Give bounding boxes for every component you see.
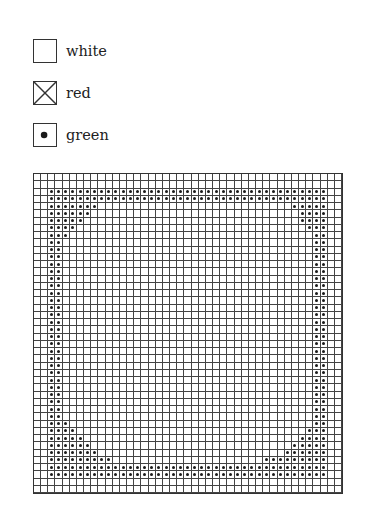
grid-cell-white[interactable] [55, 486, 62, 493]
grid-cell-white[interactable] [199, 297, 206, 304]
grid-cell-white[interactable] [34, 384, 41, 391]
grid-cell-white[interactable] [134, 203, 141, 210]
grid-cell-white[interactable] [77, 413, 84, 420]
grid-cell-white[interactable] [328, 363, 335, 370]
grid-cell-white[interactable] [306, 326, 313, 333]
grid-cell-white[interactable] [163, 247, 170, 254]
grid-cell-white[interactable] [270, 283, 277, 290]
grid-cell-white[interactable] [77, 486, 84, 493]
grid-cell-white[interactable] [184, 334, 191, 341]
grid-cell-white[interactable] [213, 406, 220, 413]
grid-cell-white[interactable] [328, 399, 335, 406]
grid-cell-white[interactable] [227, 363, 234, 370]
grid-cell-white[interactable] [113, 254, 120, 261]
grid-cell-green[interactable] [48, 326, 55, 333]
grid-cell-white[interactable] [249, 283, 256, 290]
grid-cell-white[interactable] [270, 181, 277, 188]
grid-cell-white[interactable] [192, 239, 199, 246]
grid-cell-green[interactable] [321, 218, 328, 225]
grid-cell-white[interactable] [184, 239, 191, 246]
grid-cell-green[interactable] [98, 196, 105, 203]
grid-cell-white[interactable] [41, 305, 48, 312]
grid-cell-green[interactable] [127, 196, 134, 203]
grid-cell-white[interactable] [227, 355, 234, 362]
grid-cell-white[interactable] [206, 174, 213, 181]
grid-cell-white[interactable] [141, 210, 148, 217]
grid-cell-white[interactable] [98, 239, 105, 246]
grid-cell-green[interactable] [55, 312, 62, 319]
grid-cell-white[interactable] [41, 413, 48, 420]
grid-cell-white[interactable] [235, 276, 242, 283]
grid-cell-green[interactable] [321, 254, 328, 261]
grid-cell-white[interactable] [192, 319, 199, 326]
grid-cell-white[interactable] [328, 348, 335, 355]
grid-cell-green[interactable] [292, 457, 299, 464]
grid-cell-white[interactable] [263, 232, 270, 239]
grid-cell-white[interactable] [177, 232, 184, 239]
grid-cell-white[interactable] [206, 348, 213, 355]
grid-cell-white[interactable] [270, 268, 277, 275]
grid-cell-white[interactable] [113, 399, 120, 406]
grid-cell-white[interactable] [206, 479, 213, 486]
grid-cell-white[interactable] [77, 363, 84, 370]
grid-cell-white[interactable] [263, 435, 270, 442]
grid-cell-white[interactable] [206, 435, 213, 442]
grid-cell-white[interactable] [328, 232, 335, 239]
grid-cell-white[interactable] [170, 210, 177, 217]
grid-cell-white[interactable] [163, 341, 170, 348]
grid-cell-white[interactable] [34, 363, 41, 370]
grid-cell-white[interactable] [213, 377, 220, 384]
grid-cell-white[interactable] [199, 413, 206, 420]
grid-cell-white[interactable] [134, 326, 141, 333]
grid-cell-white[interactable] [113, 239, 120, 246]
grid-cell-green[interactable] [177, 464, 184, 471]
grid-cell-white[interactable] [91, 297, 98, 304]
grid-cell-white[interactable] [292, 247, 299, 254]
grid-cell-white[interactable] [77, 370, 84, 377]
grid-cell-white[interactable] [70, 290, 77, 297]
grid-cell-white[interactable] [278, 203, 285, 210]
grid-cell-white[interactable] [227, 276, 234, 283]
grid-cell-white[interactable] [106, 392, 113, 399]
grid-cell-green[interactable] [77, 464, 84, 471]
grid-cell-green[interactable] [184, 471, 191, 478]
grid-cell-green[interactable] [48, 406, 55, 413]
grid-cell-white[interactable] [285, 363, 292, 370]
grid-cell-white[interactable] [113, 421, 120, 428]
grid-cell-white[interactable] [292, 239, 299, 246]
grid-cell-white[interactable] [299, 348, 306, 355]
grid-cell-white[interactable] [313, 181, 320, 188]
grid-cell-green[interactable] [313, 276, 320, 283]
grid-cell-white[interactable] [227, 479, 234, 486]
grid-cell-white[interactable] [213, 486, 220, 493]
grid-cell-green[interactable] [48, 218, 55, 225]
grid-cell-white[interactable] [156, 305, 163, 312]
grid-cell-white[interactable] [270, 326, 277, 333]
grid-cell-white[interactable] [156, 225, 163, 232]
grid-cell-white[interactable] [134, 413, 141, 420]
grid-cell-green[interactable] [313, 247, 320, 254]
grid-cell-white[interactable] [278, 450, 285, 457]
grid-cell-white[interactable] [199, 406, 206, 413]
grid-cell-white[interactable] [170, 203, 177, 210]
grid-cell-white[interactable] [149, 479, 156, 486]
grid-cell-white[interactable] [170, 276, 177, 283]
grid-cell-green[interactable] [321, 392, 328, 399]
grid-cell-green[interactable] [55, 239, 62, 246]
grid-cell-white[interactable] [278, 355, 285, 362]
grid-cell-white[interactable] [141, 450, 148, 457]
grid-cell-green[interactable] [63, 232, 70, 239]
grid-cell-green[interactable] [321, 471, 328, 478]
grid-cell-white[interactable] [184, 181, 191, 188]
grid-cell-white[interactable] [299, 421, 306, 428]
grid-cell-green[interactable] [48, 196, 55, 203]
grid-cell-white[interactable] [177, 203, 184, 210]
grid-cell-green[interactable] [306, 464, 313, 471]
grid-cell-white[interactable] [299, 377, 306, 384]
grid-cell-white[interactable] [134, 450, 141, 457]
grid-cell-white[interactable] [149, 486, 156, 493]
grid-cell-white[interactable] [170, 254, 177, 261]
grid-cell-white[interactable] [141, 341, 148, 348]
grid-cell-green[interactable] [63, 421, 70, 428]
grid-cell-white[interactable] [170, 363, 177, 370]
